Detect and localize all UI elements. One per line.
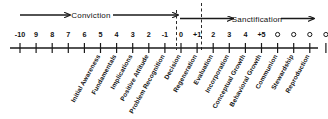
axis-number-label: 4 bbox=[243, 30, 247, 39]
axis-number-label: -1 bbox=[162, 30, 168, 39]
engel-scale-figure: -1098765432-10+1234+5 ConvictionSanctifi… bbox=[0, 0, 328, 119]
axis-number-label: 7 bbox=[66, 30, 70, 39]
axis-number-label: 2 bbox=[147, 30, 151, 39]
axis-number-label: 2 bbox=[211, 30, 215, 39]
scale-diagram: -1098765432-10+1234+5 ConvictionSanctifi… bbox=[0, 0, 328, 119]
axis-open-marker bbox=[292, 32, 296, 36]
stage-labels: Initial AwarenessFundamentalsImplication… bbox=[69, 53, 311, 115]
axis-open-marker bbox=[308, 32, 312, 36]
axis-number-label: 3 bbox=[227, 30, 231, 39]
axis-number-label: 6 bbox=[82, 30, 86, 39]
axis-number-label: 4 bbox=[115, 30, 119, 39]
axis-number-label: +5 bbox=[257, 30, 265, 39]
axis-number-label: 0 bbox=[179, 30, 183, 39]
band-label-conviction: Conviction bbox=[71, 11, 110, 20]
axis-number-label: 8 bbox=[50, 30, 54, 39]
axis-number-label: -10 bbox=[15, 30, 25, 39]
axis-number-labels: -1098765432-10+1234+5 bbox=[15, 30, 328, 39]
band-label-sanctification: Sanctification bbox=[232, 15, 282, 24]
axis-open-marker bbox=[276, 32, 280, 36]
axis-open-marker bbox=[324, 32, 328, 36]
axis-number-label: 3 bbox=[131, 30, 135, 39]
axis-number-label: +1 bbox=[193, 30, 201, 39]
axis-number-label: 5 bbox=[99, 30, 103, 39]
axis-number-label: 9 bbox=[34, 30, 38, 39]
